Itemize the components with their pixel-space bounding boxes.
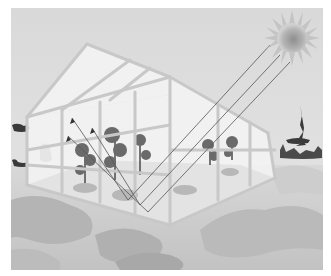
sun-icon (264, 10, 320, 66)
greenhouse-illustration (0, 0, 331, 276)
